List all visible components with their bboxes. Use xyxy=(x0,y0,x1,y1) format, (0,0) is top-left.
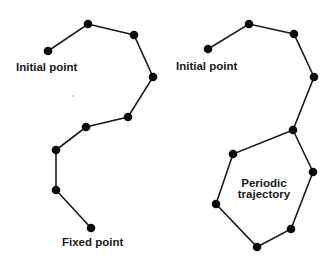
trajectory-path-to-cycle xyxy=(208,24,314,130)
trajectory-nodes xyxy=(44,20,158,233)
initial-point-label: Initial point xyxy=(176,60,237,72)
trajectory-node xyxy=(289,126,298,135)
periodic-panel: Initial point Periodic trajectory xyxy=(176,20,318,252)
trajectory-node xyxy=(87,224,96,233)
trajectory-node xyxy=(124,113,133,122)
initial-point-label: Initial point xyxy=(16,61,77,73)
trajectory-path-to-fixed-point xyxy=(48,24,153,228)
periodic-label-line2: trajectory xyxy=(238,188,291,200)
trajectory-node xyxy=(245,20,254,29)
trajectory-node xyxy=(287,225,296,234)
trajectory-node xyxy=(44,47,53,56)
trajectory-node xyxy=(52,146,61,155)
fixed-point-label: Fixed point xyxy=(62,236,124,248)
trajectory-node xyxy=(130,31,139,40)
trajectory-nodes xyxy=(204,20,319,252)
trajectory-node xyxy=(52,186,61,195)
trajectory-node xyxy=(82,123,91,132)
trajectory-node xyxy=(149,73,158,82)
trajectory-node xyxy=(310,73,319,82)
trajectory-diagram: Initial point Fixed point Initial point … xyxy=(0,0,332,263)
trajectory-node xyxy=(204,45,213,54)
trajectory-node xyxy=(229,150,238,159)
trajectory-node xyxy=(309,168,318,177)
trajectory-node xyxy=(84,20,93,29)
trajectory-node xyxy=(290,30,299,39)
trajectory-node xyxy=(253,243,262,252)
speck-artifact xyxy=(72,95,74,97)
fixed-point-panel: Initial point Fixed point xyxy=(16,20,157,248)
trajectory-node xyxy=(212,200,221,209)
